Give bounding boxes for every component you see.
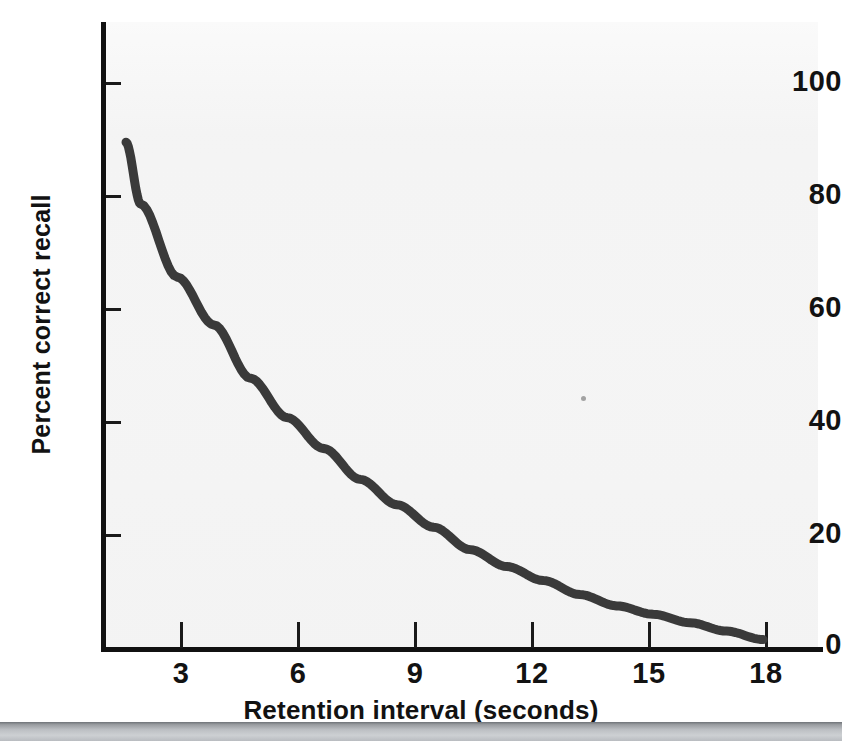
y-tick-20 [106, 534, 121, 537]
x-tick-15 [648, 622, 651, 648]
x-tick-18 [765, 622, 768, 648]
x-tick-12 [531, 622, 534, 648]
x-tick-6 [297, 622, 300, 648]
y-tick-100 [106, 82, 121, 85]
x-tick-label-15: 15 [609, 657, 689, 690]
y-tick-40 [106, 421, 121, 424]
x-tick-label-9: 9 [375, 657, 455, 690]
y-axis-title: Percent correct recall [27, 115, 56, 535]
figure-canvas: 100 80 60 40 20 0 3 6 9 12 15 18 Percent… [0, 0, 842, 741]
y-tick-label-60: 60 [780, 291, 842, 324]
x-tick-9 [414, 622, 417, 648]
plot-area [105, 22, 818, 648]
y-axis-line [101, 22, 106, 652]
x-tick-label-12: 12 [492, 657, 572, 690]
x-tick-label-18: 18 [726, 657, 806, 690]
y-tick-label-80: 80 [780, 178, 842, 211]
y-tick-label-20: 20 [780, 517, 842, 550]
x-axis-line [101, 647, 823, 652]
y-tick-80 [106, 195, 121, 198]
x-tick-label-6: 6 [258, 657, 338, 690]
x-tick-label-3: 3 [141, 657, 221, 690]
y-tick-60 [106, 308, 121, 311]
y-tick-label-100: 100 [780, 65, 842, 98]
y-tick-label-40: 40 [780, 404, 842, 437]
scan-speck [581, 396, 586, 401]
x-tick-3 [180, 622, 183, 648]
footer-band [0, 722, 842, 741]
